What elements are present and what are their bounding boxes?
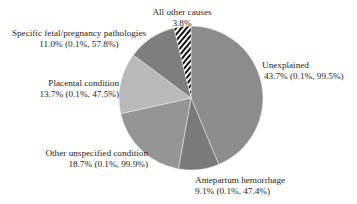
label-antepartum-value: 9.1% (0.1%, 47.4%) — [195, 186, 285, 197]
label-specific-fetal-value: 11.0% (0.1%, 57.8%) — [6, 39, 152, 50]
label-placental-name: Placental condition — [30, 78, 119, 89]
label-specific-fetal: Specific fetal/pregnancy pathologies 11.… — [6, 28, 152, 50]
label-unexplained-value: 43.7% (0.1%, 99.5%) — [262, 71, 344, 82]
label-placental: Placental condition 13.7% (0.1%, 47.5%) — [30, 78, 119, 100]
label-unexplained: Unexplained 43.7% (0.1%, 99.5%) — [262, 60, 344, 82]
label-placental-value: 13.7% (0.1%, 47.5%) — [30, 89, 119, 100]
label-other-unspecified: Other unspecified condition 18.7% (0.1%,… — [22, 148, 148, 170]
label-antepartum-name: Antepartum hemorrhage — [195, 175, 285, 186]
label-all-other: All other causes 3.8% — [143, 7, 221, 29]
label-unexplained-name: Unexplained — [262, 60, 344, 71]
label-other-unspecified-name: Other unspecified condition — [22, 148, 148, 159]
label-specific-fetal-name: Specific fetal/pregnancy pathologies — [6, 28, 152, 39]
label-other-unspecified-value: 18.7% (0.1%, 99.9%) — [22, 159, 148, 170]
label-antepartum: Antepartum hemorrhage 9.1% (0.1%, 47.4%) — [195, 175, 285, 197]
label-all-other-name: All other causes — [143, 7, 221, 18]
label-all-other-value: 3.8% — [143, 18, 221, 29]
